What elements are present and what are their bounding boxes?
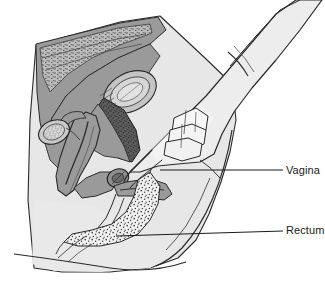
anatomy-illustration <box>0 0 325 288</box>
anatomical-figure: Vagina Rectum <box>0 0 325 288</box>
label-vagina: Vagina <box>286 164 320 176</box>
label-rectum: Rectum <box>286 224 325 236</box>
